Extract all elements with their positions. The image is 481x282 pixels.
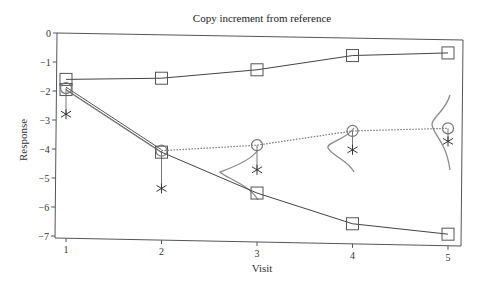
y-tick-label: −6: [39, 202, 50, 213]
asterisk-marker: [61, 109, 71, 119]
y-tick-label: −5: [39, 173, 50, 184]
series-layer: [60, 47, 454, 240]
asterisk-marker: [252, 165, 262, 175]
x-tick-label: 3: [255, 248, 260, 259]
asterisk-marker: [348, 145, 358, 155]
distribution-curve-visit5: [432, 95, 450, 170]
copy-increment-segment: [66, 90, 162, 153]
x-tick-label: 5: [446, 252, 451, 263]
asterisk-marker: [157, 183, 167, 193]
asterisk-marker: [443, 136, 453, 146]
copy-increment-line: [162, 128, 449, 150]
distribution-curves: [220, 95, 450, 200]
y-axis: 0−1−2−3−4−5−6−7: [38, 28, 57, 242]
x-tick-label: 4: [350, 250, 355, 261]
y-tick-label: −4: [39, 144, 50, 155]
distribution-curve-visit3: [220, 150, 258, 200]
x-tick-label: 1: [64, 244, 69, 255]
y-tick-label: −1: [40, 57, 51, 68]
y-tick-label: −7: [38, 231, 49, 242]
x-axis-label: Visit: [252, 262, 273, 274]
copy-increment-segment: [66, 87, 162, 150]
chart: Copy increment from reference 0−1−2−3−4−…: [0, 0, 481, 282]
y-axis-label: Response: [17, 119, 29, 161]
y-tick-label: −2: [40, 86, 51, 97]
x-tick-label: 2: [159, 246, 164, 257]
y-tick-label: −3: [39, 115, 50, 126]
y-tick-label: 0: [46, 28, 51, 39]
chart-title: Copy increment from reference: [193, 12, 331, 24]
